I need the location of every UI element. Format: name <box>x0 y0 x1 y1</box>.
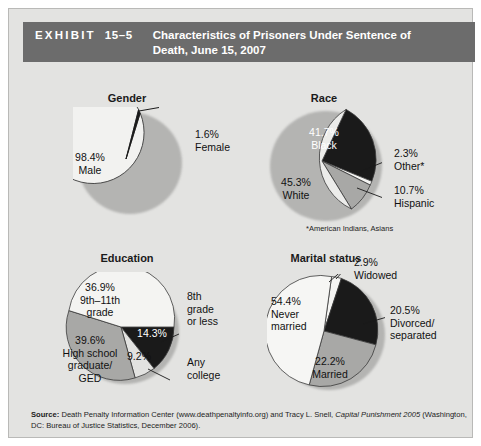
pie-label-education-any-college-line2: college <box>187 369 220 382</box>
exhibit-title: Characteristics of Prisoners Under Sente… <box>153 28 443 57</box>
pie-label-gender-male: 98.4% Male <box>59 151 121 176</box>
exhibit-label: EXHIBIT <box>35 28 96 41</box>
pie-label-race-other: 2.3% Other* <box>394 147 424 172</box>
pie-label-education-hs-line3: GED <box>46 372 134 385</box>
exhibit-figure: EXHIBIT 15–5 Characteristics of Prisoner… <box>0 0 481 446</box>
leader-line-gender-female <box>139 108 159 112</box>
source-title-italic: Capital Punishment 2005 <box>335 410 420 419</box>
pie-label-education-8th-value: 14.3% <box>130 327 174 340</box>
pie-label-education-8th-line2: grade <box>187 303 218 316</box>
pie-label-education-9th-11th: 36.9% 9th–11th grade <box>61 281 139 319</box>
pie-label-marital-divorced: 20.5% Divorced/ separated <box>390 304 437 342</box>
pie-label-education-any-college-line1: Any <box>187 356 220 369</box>
pie-label-education-hs-line1: High school <box>46 347 134 360</box>
pie-label-race-hispanic-name: Hispanic <box>394 197 434 210</box>
footnote-race-star: *American Indians, Asians <box>306 224 393 233</box>
pie-label-gender-female: 1.6% Female <box>195 128 230 153</box>
pie-label-race-hispanic: 10.7% Hispanic <box>394 184 434 209</box>
chart-title-education: Education <box>87 252 167 264</box>
pie-label-race-white: 45.3% White <box>263 176 329 201</box>
chart-title-gender: Gender <box>87 92 167 104</box>
exhibit-header-bar: EXHIBIT 15–5 Characteristics of Prisoner… <box>23 22 475 62</box>
pie-label-education-9th-11th-name1: 9th–11th <box>61 294 139 307</box>
pie-label-race-black-name: Black <box>291 139 357 152</box>
pie-label-race-hispanic-value: 10.7% <box>394 184 434 197</box>
pie-label-education-9th-11th-value: 36.9% <box>61 281 139 294</box>
pie-label-race-black-value: 41.7% <box>291 126 357 139</box>
pie-label-education-8th-line1: 8th <box>187 290 218 303</box>
pie-label-marital-widowed: 2.9% Widowed <box>354 256 397 281</box>
pie-label-education-8th-line3: or less <box>187 315 218 328</box>
pie-label-race-black: 41.7% Black <box>291 126 357 151</box>
pie-label-race-other-value: 2.3% <box>394 147 424 160</box>
pie-label-education-hs-value: 39.6% <box>46 334 134 347</box>
pie-label-education-8th-value-wrap: 14.3% <box>130 327 174 340</box>
chart-title-race: Race <box>294 92 354 104</box>
pie-label-marital-widowed-name: Widowed <box>354 269 397 282</box>
pie-label-marital-never-line1: Never <box>271 308 341 321</box>
pie-label-marital-married-value: 22.2% <box>297 355 363 368</box>
pie-label-gender-female-value: 1.6% <box>195 128 230 141</box>
source-text-1: Death Penalty Information Center (www.de… <box>59 410 335 419</box>
pie-label-marital-never-value: 54.4% <box>271 295 341 308</box>
pie-label-education-9th-11th-name2: grade <box>61 306 139 319</box>
pie-label-marital-never-line2: married <box>271 320 341 333</box>
pie-label-education-8th-text: 8th grade or less <box>187 290 218 328</box>
pie-label-marital-married-name: Married <box>297 368 363 381</box>
pie-label-race-white-name: White <box>263 189 329 202</box>
pie-label-marital-divorced-value: 20.5% <box>390 304 437 317</box>
exhibit-number: 15–5 <box>105 28 133 41</box>
pie-label-race-other-name: Other* <box>394 160 424 173</box>
pie-label-gender-female-name: Female <box>195 141 230 154</box>
pie-label-marital-never-married: 54.4% Never married <box>271 295 341 333</box>
pie-label-education-hs-line2: graduate/ <box>46 359 134 372</box>
pie-label-race-white-value: 45.3% <box>263 176 329 189</box>
pie-label-education-any-college-text: Any college <box>187 356 220 381</box>
pie-label-marital-divorced-line2: separated <box>390 329 437 342</box>
pie-label-gender-male-value: 98.4% <box>59 151 121 164</box>
leader-line-education-any-college <box>148 369 170 380</box>
source-note: Source: Death Penalty Information Center… <box>31 410 471 431</box>
pie-label-education-hs-grad: 39.6% High school graduate/ GED <box>46 334 134 384</box>
pie-label-gender-male-name: Male <box>59 164 121 177</box>
pie-label-marital-married: 22.2% Married <box>297 355 363 380</box>
figure-panel: EXHIBIT 15–5 Characteristics of Prisoner… <box>8 8 473 438</box>
source-label: Source: <box>31 410 59 419</box>
pie-label-marital-widowed-value: 2.9% <box>354 256 397 269</box>
pie-chart-race <box>264 105 382 219</box>
pie-label-marital-divorced-line1: Divorced/ <box>390 317 437 330</box>
